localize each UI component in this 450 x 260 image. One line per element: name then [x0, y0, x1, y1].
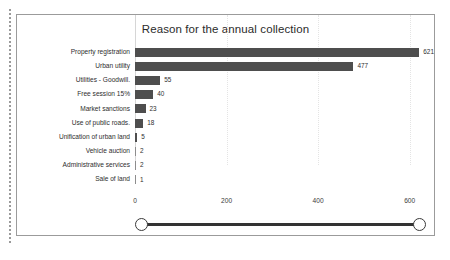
bar-value-label: 621: [423, 49, 434, 55]
bar-value-label: 2: [140, 162, 144, 168]
bar-zone: 1: [135, 173, 436, 187]
screenshot-frame: Reason for the annual collection Propert…: [9, 9, 441, 243]
range-end-handle[interactable]: [413, 218, 426, 231]
horizontal-range-slider[interactable]: [135, 217, 426, 233]
chart-title: Reason for the annual collection: [17, 23, 434, 35]
x-axis-tick: 0: [133, 198, 137, 205]
chart-bar-row: Administrative services2: [17, 159, 436, 173]
chart-bar-row: Free session 15%40: [17, 88, 436, 102]
bar-category-label: Market sanctions: [17, 106, 135, 113]
bar-category-label: Utilities - Goodwill.: [17, 77, 135, 84]
chart-bar-row: Vehicle auction2: [17, 144, 436, 158]
chart-bar-row: Sale of land1: [17, 173, 436, 187]
x-axis-tick: 600: [404, 198, 415, 205]
chart-bar[interactable]: [135, 133, 137, 142]
bar-zone: 5: [135, 130, 436, 144]
chart-bar-row: Use of public roads.18: [17, 116, 436, 130]
chart-bar[interactable]: [135, 76, 160, 85]
x-axis-tick-labels: 0200400600: [135, 198, 426, 212]
bar-zone: 40: [135, 88, 436, 102]
chart-bar-row: Unification of urban land5: [17, 130, 436, 144]
bar-category-label: Unification of urban land: [17, 134, 135, 141]
chart-bar-row: Urban utility477: [17, 59, 436, 73]
bar-value-label: 2: [140, 148, 144, 154]
chart-bar[interactable]: [135, 147, 136, 156]
bar-value-label: 23: [150, 106, 157, 112]
chart-bar-row: Market sanctions23: [17, 102, 436, 116]
x-axis-tick: 400: [313, 198, 324, 205]
chart-bar[interactable]: [135, 62, 353, 71]
bar-value-label: 477: [357, 63, 368, 69]
chart-bar[interactable]: [135, 90, 153, 99]
chart-bar[interactable]: [135, 48, 419, 57]
bar-category-label: Vehicle auction: [17, 148, 135, 155]
bar-category-label: Sale of land: [17, 176, 135, 183]
bar-category-label: Free session 15%: [17, 91, 135, 98]
bar-zone: 2: [135, 144, 436, 158]
bar-zone: 55: [135, 73, 436, 87]
bar-zone: 18: [135, 116, 436, 130]
bar-value-label: 40: [157, 91, 164, 97]
bar-value-label: 18: [147, 120, 154, 126]
bar-zone: 23: [135, 102, 436, 116]
bar-chart-plot-area: Property registration621Urban utility477…: [17, 45, 436, 195]
bar-value-label: 5: [141, 134, 145, 140]
range-start-handle[interactable]: [135, 218, 148, 231]
chart-panel: Reason for the annual collection Propert…: [16, 14, 435, 236]
bar-zone: 477: [135, 59, 436, 73]
chart-bar[interactable]: [135, 161, 136, 170]
chart-bar[interactable]: [135, 175, 136, 184]
chart-bar-row: Utilities - Goodwill.55: [17, 73, 436, 87]
chart-bar[interactable]: [135, 104, 146, 113]
bar-value-label: 55: [164, 77, 171, 83]
bar-category-label: Property registration: [17, 49, 135, 56]
chart-bar[interactable]: [135, 119, 143, 128]
bar-zone: 2: [135, 159, 436, 173]
x-axis-tick: 200: [221, 198, 232, 205]
bar-zone: 621: [135, 45, 436, 59]
bar-category-label: Urban utility: [17, 63, 135, 70]
bar-category-label: Administrative services: [17, 162, 135, 169]
bar-category-label: Use of public roads.: [17, 120, 135, 127]
bar-value-label: 1: [140, 177, 144, 183]
chart-bar-row: Property registration621: [17, 45, 436, 59]
slider-track[interactable]: [142, 223, 419, 226]
